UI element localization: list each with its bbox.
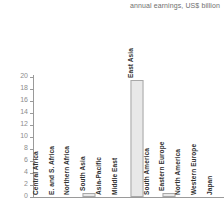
- x-axis-category-label: North America: [174, 149, 181, 195]
- x-axis-category-label: South America: [143, 148, 150, 195]
- y-axis-tick-label: 14: [20, 108, 28, 116]
- y-axis-tick: 10: [0, 137, 34, 138]
- y-axis-tick: 20: [0, 77, 34, 78]
- y-axis-tick-label: 10: [20, 132, 28, 140]
- y-axis-tick-label: 0: [24, 192, 28, 200]
- chart-title: annual earnings, US$ billion: [130, 2, 220, 9]
- y-axis-tick-label: 16: [20, 96, 28, 104]
- y-axis-tick: 18: [0, 89, 34, 90]
- y-axis-tick: 4: [0, 173, 34, 174]
- x-axis-category-label: Middle East: [111, 158, 118, 195]
- x-axis-category-label: E. and S. Africa: [48, 146, 55, 195]
- y-axis-tick-mark: [30, 197, 34, 198]
- y-axis-tick: 16: [0, 101, 34, 102]
- y-axis-tick-label: 20: [20, 72, 28, 80]
- bar-group: Middle East: [113, 77, 129, 197]
- bar[interactable]: [83, 193, 96, 197]
- x-axis-line: [33, 197, 224, 198]
- x-axis-category-label: Eastern Europe: [158, 141, 165, 190]
- y-axis-tick-label: 12: [20, 120, 28, 128]
- x-axis-category-label: Western Europe: [190, 144, 197, 195]
- y-axis-tick: 14: [0, 113, 34, 114]
- bar-group: Japan: [208, 77, 224, 197]
- y-axis-tick-label: 8: [24, 144, 28, 152]
- x-axis-category-label: Central Africa: [32, 151, 39, 195]
- y-axis-tick: 6: [0, 161, 34, 162]
- x-axis-category-label: Asia-Pacific: [95, 157, 102, 195]
- y-axis-tick: 0: [0, 197, 34, 198]
- x-axis-category-label: East Asia: [127, 48, 134, 78]
- y-axis-tick-label: 18: [20, 84, 28, 92]
- y-axis-tick-label: 6: [24, 156, 28, 164]
- x-axis-category-label: South Asia: [79, 156, 86, 191]
- bar-chart: annual earnings, US$ billion 20181614121…: [0, 0, 224, 210]
- y-axis-tick: 2: [0, 185, 34, 186]
- x-axis-category-label: Japan: [206, 176, 213, 195]
- y-axis-tick: 12: [0, 125, 34, 126]
- y-axis-tick-label: 4: [24, 168, 28, 176]
- bar[interactable]: [130, 80, 143, 197]
- y-axis-tick-label: 2: [24, 180, 28, 188]
- plot-area: Central AfricaE. and S. AfricaNorthern A…: [34, 77, 224, 197]
- y-axis-tick: 8: [0, 149, 34, 150]
- x-axis-category-label: Northern Africa: [63, 146, 70, 195]
